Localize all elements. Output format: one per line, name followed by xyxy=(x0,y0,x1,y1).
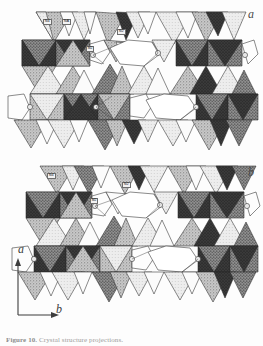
axis-indicator: a b xyxy=(4,243,74,325)
axis-arrows xyxy=(4,243,74,325)
figure-caption: Figure 10. Crystal structure projections… xyxy=(6,336,261,346)
axis-arrowhead-a xyxy=(15,258,21,266)
site-label-si2-a: Si2 xyxy=(117,29,126,35)
caption-text: Crystal structure projections. xyxy=(37,336,123,344)
structure-drawing-a xyxy=(0,0,263,158)
panel-letter-b: b xyxy=(248,166,254,178)
axis-label-b: b xyxy=(56,303,62,315)
structure-panel-a: Si4 SiA Si2 M2 xyxy=(0,0,263,158)
panel-letter-a: a xyxy=(248,8,254,20)
site-label-si4-b: Si4 xyxy=(47,173,56,179)
figure-root: Si4 SiA Si2 M2 a xyxy=(0,0,263,346)
site-label-si4-a: Si4 xyxy=(43,19,52,25)
site-label-sia-a: SiA xyxy=(62,19,71,25)
caption-lead: Figure 10. xyxy=(6,336,37,344)
site-label-m2-a: M2 xyxy=(86,46,94,52)
site-label-m2-b: M2 xyxy=(90,198,98,204)
site-label-si2-b: Si2 xyxy=(122,182,131,188)
axis-label-a: a xyxy=(18,243,24,255)
